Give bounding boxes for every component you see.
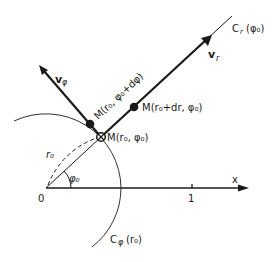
point-m-label: M(r₀, φ₀) [107,132,149,143]
point-m-dphi-label: M(r₀, φ₀+dφ) [92,70,146,121]
curve-c-r-label: C r (φ₀) [232,23,265,36]
svg-text:φ: φ [62,78,68,87]
point-m-dphi [86,120,95,129]
svg-text:C: C [110,234,117,245]
svg-text:r: r [240,28,244,36]
origin-label: 0 [38,193,44,204]
diagram-svg: 0 1 x φ₀ r₀ M(r₀, φ₀) M(r₀+dr, φ₀) M(r₀,… [0,0,277,262]
angle-label: φ₀ [69,173,80,184]
point-m-dr [130,103,139,112]
curve-c-phi-label: C φ (r₀) [110,234,142,247]
svg-text:v: v [208,48,216,61]
x-axis-arrowhead [238,185,249,192]
svg-text:(φ₀): (φ₀) [246,23,265,34]
polar-coordinates-diagram: 0 1 x φ₀ r₀ M(r₀, φ₀) M(r₀+dr, φ₀) M(r₀,… [0,0,277,262]
point-m-dr-label: M(r₀+dr, φ₀) [142,102,202,113]
tick-1-label: 1 [188,193,194,204]
x-axis-label: x [232,174,238,185]
svg-text:(r₀): (r₀) [126,234,142,245]
vector-vr-label: v r [208,48,220,63]
svg-text:r: r [216,54,220,63]
point-m [97,133,106,142]
radius-label: r₀ [46,149,54,160]
vector-vphi-label: v φ [55,73,68,87]
svg-text:φ: φ [118,238,124,247]
svg-text:C: C [232,23,239,34]
vector-vr [101,39,207,137]
